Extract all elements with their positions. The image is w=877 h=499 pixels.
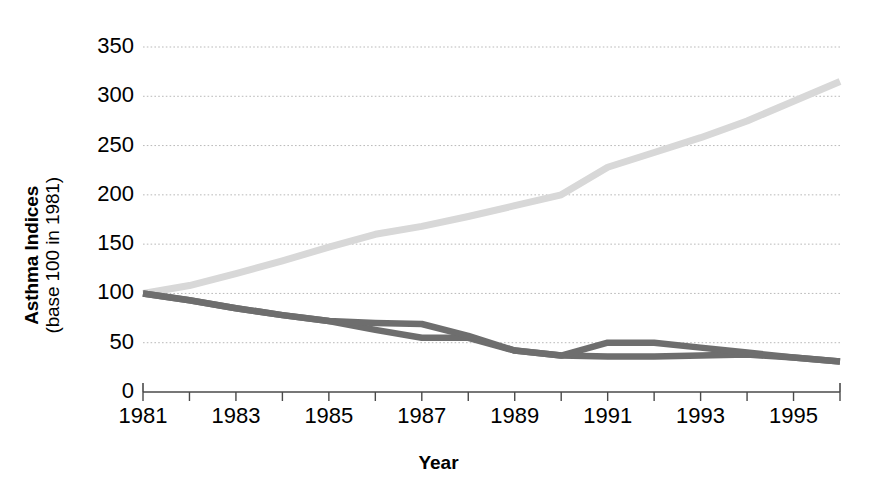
x-axis-tick-label: 1991 <box>558 405 658 427</box>
x-axis-tick-label: 1985 <box>279 405 379 427</box>
x-axis-tick-label: 1983 <box>186 405 286 427</box>
x-axis-tick-label: 1995 <box>744 405 844 427</box>
x-axis-tick-label: 1987 <box>372 405 472 427</box>
x-axis-tick-label: 1989 <box>465 405 565 427</box>
asthma-indices-line-chart: Asthma Indices (base 100 in 1981) 350300… <box>0 0 877 499</box>
x-axis-tick-label: 1993 <box>651 405 751 427</box>
x-axis-title: Year <box>0 452 877 474</box>
x-axis-tick-label: 1981 <box>93 405 193 427</box>
x-axis-tick-labels: 19811983198519871989199119931995 <box>0 0 877 499</box>
